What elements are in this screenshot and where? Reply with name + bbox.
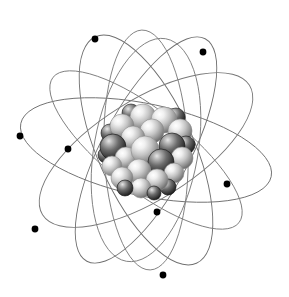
atom-illustration	[0, 0, 289, 297]
electron-left-mid	[65, 146, 72, 153]
electron-left-lower	[32, 226, 39, 233]
electron-upper-right	[200, 49, 207, 56]
electron-upper-left	[92, 36, 99, 43]
atom-diagram-canvas	[0, 0, 289, 297]
electron-bottom	[160, 272, 167, 279]
electron-left-upper	[17, 133, 24, 140]
electron-right-mid	[224, 181, 231, 188]
electron-center-lower	[154, 209, 161, 216]
